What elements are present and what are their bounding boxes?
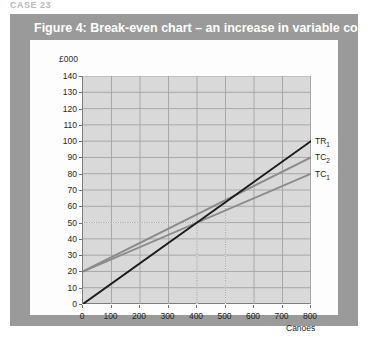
x-axis-tick-mark (196, 305, 197, 308)
y-axis-tick-mark (79, 271, 82, 272)
x-axis-tick-label: 700 (267, 312, 297, 320)
y-axis-tick-mark (79, 76, 82, 77)
x-axis-tick-mark (168, 305, 169, 308)
y-axis-tick-label: 140 (51, 72, 77, 80)
figure-frame: Figure 4: Break-even chart – an increase… (10, 14, 358, 326)
x-axis-tick-label: 100 (96, 312, 126, 320)
y-axis-tick-mark (79, 125, 82, 126)
x-axis-tick-mark (225, 305, 226, 308)
series-label-tr1: TR1 (315, 136, 330, 148)
y-axis-tick-mark (79, 288, 82, 289)
y-axis-tick-mark (79, 109, 82, 110)
x-axis-title: Canoes (286, 323, 315, 333)
x-axis-tick-label: 400 (181, 312, 211, 320)
y-axis-tick-label: 40 (51, 235, 77, 243)
x-axis-tick-mark (282, 305, 283, 308)
y-axis-tick-mark (79, 92, 82, 93)
x-axis-tick-mark (82, 305, 83, 308)
series-label-tc2: TC2 (315, 152, 330, 164)
y-axis-tick-mark (79, 157, 82, 158)
y-axis-tick-label: 30 (51, 251, 77, 259)
x-axis-tick-mark (111, 305, 112, 308)
x-axis-tick-mark (139, 305, 140, 308)
y-axis-tick-label: 80 (51, 170, 77, 178)
y-axis-tick-label: 120 (51, 105, 77, 113)
figure-title: Figure 4: Break-even chart – an increase… (34, 16, 354, 40)
chart-svg (83, 76, 311, 304)
y-axis-tick-mark (79, 223, 82, 224)
page-header-fragment: CASE 23 (10, 0, 130, 11)
y-axis-tick-label: 0 (51, 300, 77, 308)
x-axis-tick-label: 500 (210, 312, 240, 320)
x-axis-tick-label: 0 (67, 312, 97, 320)
x-axis-tick-label: 600 (238, 312, 268, 320)
y-axis-tick-label: 70 (51, 186, 77, 194)
plot-area (82, 76, 310, 304)
x-axis-tick-label: 200 (124, 312, 154, 320)
y-axis-tick-label: 130 (51, 88, 77, 96)
x-axis-tick-label: 300 (153, 312, 183, 320)
y-axis-tick-label: 100 (51, 137, 77, 145)
series-label-tc1: TC1 (315, 169, 330, 181)
y-axis-tick-label: 110 (51, 121, 77, 129)
chart-panel: £000 0102030405060708090100110120130140 … (30, 40, 338, 315)
y-axis-tick-label: 50 (51, 219, 77, 227)
y-axis-tick-label: 10 (51, 284, 77, 292)
y-axis-tick-label: 90 (51, 153, 77, 161)
x-axis-tick-mark (310, 305, 311, 308)
x-axis-tick-label: 800 (295, 312, 325, 320)
y-axis-tick-label: 60 (51, 202, 77, 210)
y-axis-tick-mark (79, 255, 82, 256)
y-axis-tick-mark (79, 190, 82, 191)
y-axis-tick-mark (79, 141, 82, 142)
y-axis-unit-label: £000 (59, 54, 78, 64)
y-axis-tick-mark (79, 174, 82, 175)
y-axis-tick-mark (79, 239, 82, 240)
x-axis-tick-mark (253, 305, 254, 308)
y-axis-tick-mark (79, 206, 82, 207)
y-axis-tick-label: 20 (51, 267, 77, 275)
